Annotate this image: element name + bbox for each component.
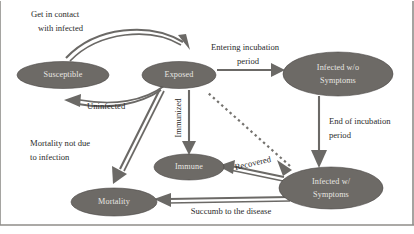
entering-incubation-line2: period [237,56,260,66]
node-immune[interactable]: Immune [154,154,224,180]
edge-label-entering-incubation-period: Entering incubation period [211,42,280,66]
node-infected-without-symptoms[interactable]: Infected w/o Symptoms [283,52,393,96]
edge-label-get-in-contact-with-infected: Get in contact with infected [31,9,84,33]
succumb-label: Succumb to the disease [191,206,272,216]
infected-with-symptoms-ellipse [279,167,383,209]
edge-label-recovered: Recovered [234,154,273,172]
entering-incubation-line1: Entering incubation [211,42,280,52]
edge-infected-wo-to-infected-w [311,96,327,168]
seir-flow-diagram: Susceptible Exposed Infected w/o Symptom… [0,0,414,234]
infected-without-symptoms-label-line2: Symptoms [320,76,356,85]
recovered-label: Recovered [234,154,273,172]
edge-infected-w-to-mortality [154,193,290,207]
edge-label-uninfected: Uninfected [87,101,126,111]
infected-with-symptoms-label-line1: Infected w/ [312,177,351,186]
mortality-not-due-line1: Mortality not due [30,138,90,148]
end-of-incubation-line1: End of incubation [329,116,391,126]
diagram-canvas: Susceptible Exposed Infected w/o Symptom… [0,0,414,234]
uninfected-label: Uninfected [87,101,126,111]
susceptible-label: Susceptible [44,70,83,79]
end-of-incubation-line2: period [329,130,352,140]
immune-label: Immune [175,162,203,171]
mortality-label: Mortality [98,197,131,206]
edge-label-mortality-not-due-to-infection: Mortality not due to infection [30,138,90,162]
edge-label-end-of-incubation-period: End of incubation period [329,116,391,140]
immunized-label: Immunized [173,98,183,138]
infected-with-symptoms-label-line2: Symptoms [313,190,349,199]
infected-without-symptoms-ellipse [283,52,393,96]
exposed-label: Exposed [165,70,194,79]
edge-exposed-to-immune [182,90,196,155]
edge-label-immunized: Immunized [173,98,183,138]
node-susceptible[interactable]: Susceptible [17,62,109,89]
mortality-not-due-line2: to infection [30,152,70,162]
infected-without-symptoms-label-line1: Infected w/o [317,63,359,72]
edge-label-succumb-to-the-disease: Succumb to the disease [191,206,272,216]
node-infected-with-symptoms[interactable]: Infected w/ Symptoms [279,167,383,209]
get-in-contact-line2: with infected [38,23,84,33]
node-exposed[interactable]: Exposed [142,62,216,89]
edge-susceptible-to-exposed [66,30,190,61]
get-in-contact-line1: Get in contact [31,9,80,19]
node-mortality[interactable]: Mortality [71,188,157,216]
